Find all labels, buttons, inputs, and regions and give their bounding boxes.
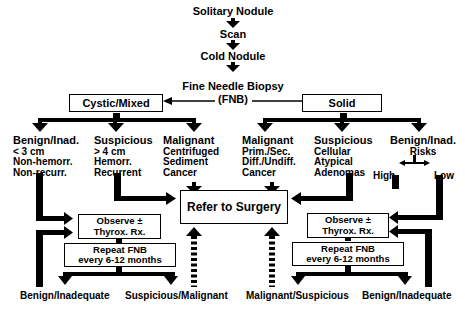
outcome-title: Benign/Inad. <box>383 135 463 147</box>
refer-to-surgery-label: Refer to Surgery <box>187 200 281 214</box>
observe-line1: Observe ± <box>325 215 371 226</box>
outcome-detail: Non-recurr. <box>13 168 79 179</box>
solid-box: Solid <box>302 94 382 112</box>
cystic-mixed-box: Cystic/Mixed <box>69 94 163 112</box>
left-outcome-suspicious: Suspicious > 4 cm Hemorr. Recurrent <box>94 135 153 178</box>
outcome-title: Malignant <box>163 135 219 147</box>
outcome-title: Suspicious <box>314 135 373 147</box>
outcome-detail: Diff./Undiff. <box>242 157 296 168</box>
observe-line2: Thyrox. Rx. <box>322 226 374 237</box>
outcome-detail: Atypical <box>314 157 373 168</box>
outcome-title: Suspicious <box>94 135 153 147</box>
solitary-nodule-label: Solitary Nodule <box>183 6 283 18</box>
outcome-detail: Sediment <box>163 157 219 168</box>
outcome-detail: Cancer <box>163 168 219 179</box>
outcome-detail: Hemorr. <box>94 157 153 168</box>
outcome-title: Benign/Inad. <box>13 135 79 147</box>
outcome-detail: Risks <box>383 147 463 158</box>
left-observe-box: Observe ± Thyrox. Rx. <box>78 214 161 239</box>
bottom-right-malignant-label: Malignant/Suspicious <box>246 290 349 302</box>
outcome-title: Malignant <box>242 135 296 147</box>
outcome-detail: Non-hemorr. <box>13 157 79 168</box>
risk-low-label: Low <box>434 170 454 182</box>
observe-line2: Thyrox. Rx. <box>94 227 146 238</box>
right-outcome-malignant: Malignant Prim./Sec. Diff./Undiff. Cance… <box>242 135 296 178</box>
right-observe-box: Observe ± Thyrox. Rx. <box>307 213 389 238</box>
outcome-detail: Adenomas <box>314 168 373 179</box>
bottom-right-benign-label: Benign/Inadequate <box>362 290 451 302</box>
observe-line1: Observe ± <box>97 216 143 227</box>
bottom-left-benign-label: Benign/Inadequate <box>20 290 109 302</box>
risk-high-label: High <box>373 170 395 182</box>
fnb-abbrev-label: (FNB) <box>208 94 258 106</box>
outcome-detail: Cancer <box>242 168 296 179</box>
bottom-left-suspicious-label: Suspicious/Malignant <box>125 290 228 302</box>
right-outcome-suspicious: Suspicious Cellular Atypical Adenomas <box>314 135 373 178</box>
cystic-mixed-label: Cystic/Mixed <box>82 97 149 109</box>
left-outcome-malignant: Malignant Centrifuged Sediment Cancer <box>163 135 219 178</box>
solid-label: Solid <box>329 97 356 109</box>
cold-nodule-label: Cold Nodule <box>183 51 283 63</box>
outcome-detail: Recurrent <box>94 168 153 179</box>
fnb-label: Fine Needle Biopsy <box>168 81 298 93</box>
repeat-line2: every 6-12 months <box>306 254 389 265</box>
left-repeat-fnb-box: Repeat FNB every 6-12 months <box>64 243 176 267</box>
repeat-line2: every 6-12 months <box>78 255 161 266</box>
left-outcome-benign: Benign/Inad. < 3 cm Non-hemorr. Non-recu… <box>13 135 79 178</box>
right-outcome-benign: Benign/Inad. Risks <box>383 135 463 157</box>
scan-label: Scan <box>183 29 283 41</box>
right-repeat-fnb-box: Repeat FNB every 6-12 months <box>292 242 404 266</box>
refer-to-surgery-box: Refer to Surgery <box>180 190 288 224</box>
